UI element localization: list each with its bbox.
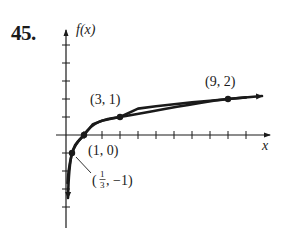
y-axis-label: f(x): [76, 22, 96, 38]
function-curve-lower: [68, 135, 84, 198]
svg-text:, −1): , −1): [106, 173, 133, 189]
point-9-2: [225, 96, 231, 102]
leader-line: [76, 157, 91, 173]
point-third-neg1: [69, 150, 75, 156]
point-3-1: [117, 114, 123, 120]
svg-text:(: (: [92, 173, 97, 189]
fraction-denominator: 3: [100, 180, 105, 190]
fraction-numerator: 1: [100, 169, 105, 179]
x-axis-label: x: [261, 138, 269, 153]
label-point-1-0: (1, 0): [88, 143, 119, 159]
label-point-9-2: (9, 2): [205, 74, 236, 90]
label-point-3-1: (3, 1): [90, 92, 121, 108]
label-point-third-neg1: ( 1 3 , −1): [92, 169, 133, 190]
log-graph: f(x) x (3, 1) (9, 2) (1, 0) ( 1 3 , −1): [0, 0, 285, 229]
point-1-0: [81, 132, 87, 138]
